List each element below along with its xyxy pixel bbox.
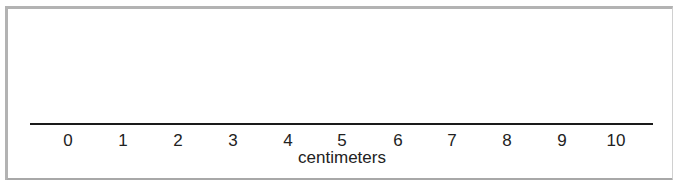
tick-label: 3	[218, 131, 248, 151]
tick-label: 6	[383, 131, 413, 151]
tick-label: 8	[492, 131, 522, 151]
ruler-baseline	[30, 123, 653, 125]
unit-label: centimeters	[298, 148, 386, 168]
tick-label: 0	[53, 131, 83, 151]
tick-label: 7	[437, 131, 467, 151]
tick-label: 1	[108, 131, 138, 151]
tick-label: 9	[547, 131, 577, 151]
tick-label: 2	[163, 131, 193, 151]
tick-label: 10	[601, 131, 631, 151]
